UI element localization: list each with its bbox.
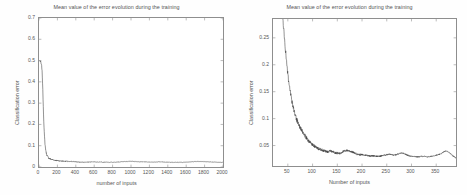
x-tick-label: 1000 <box>124 169 135 175</box>
chart-left-title: Mean value of the error evolution during… <box>0 4 233 10</box>
x-tick-label: 350 <box>431 168 439 174</box>
y-tick-label: 0.1 <box>16 142 35 148</box>
x-tick-label: 200 <box>52 169 60 175</box>
x-tick-label: 400 <box>71 169 79 175</box>
chart-right-x-axis-title: Number of inputs <box>233 179 466 185</box>
x-tick-label: 50 <box>284 168 290 174</box>
x-tick-label: 1800 <box>198 169 209 175</box>
chart-right: Mean value of the error evolution during… <box>233 0 466 195</box>
y-tick-label: 0.2 <box>250 61 269 67</box>
x-tick-label: 1400 <box>161 169 172 175</box>
y-tick-label: 0.6 <box>16 35 35 41</box>
x-tick-label: 150 <box>332 168 340 174</box>
figure-sheet: Mean value of the error evolution during… <box>0 0 467 195</box>
y-tick-label: 0.05 <box>250 142 269 148</box>
y-tick-label: 0.25 <box>250 34 269 40</box>
y-tick-label: 0.7 <box>16 14 35 20</box>
chart-left-plot-area <box>38 17 224 168</box>
x-tick-label: 300 <box>406 168 414 174</box>
x-tick-label: 250 <box>382 168 390 174</box>
x-tick-label: 600 <box>89 169 97 175</box>
chart-left-x-axis-title: number of inputs <box>0 180 233 186</box>
chart-left-y-axis-title: Classification error <box>14 80 20 125</box>
y-tick-label: 0 <box>16 163 35 169</box>
x-tick-label: 1600 <box>180 169 191 175</box>
x-tick-label: 800 <box>107 169 115 175</box>
x-tick-label: 2000 <box>216 169 227 175</box>
chart-right-line-series <box>273 19 456 166</box>
y-tick-label: 0.5 <box>16 57 35 63</box>
chart-right-plot-area <box>272 18 457 167</box>
x-tick-label: 0 <box>37 169 40 175</box>
chart-left: Mean value of the error evolution during… <box>0 0 233 195</box>
x-tick-label: 100 <box>307 168 315 174</box>
x-tick-label: 1200 <box>143 169 154 175</box>
chart-right-y-axis-title: Classification error <box>248 80 254 125</box>
chart-left-line-series <box>39 18 223 167</box>
x-tick-label: 200 <box>357 168 365 174</box>
chart-right-title: Mean value of the error evolution during… <box>233 4 466 10</box>
